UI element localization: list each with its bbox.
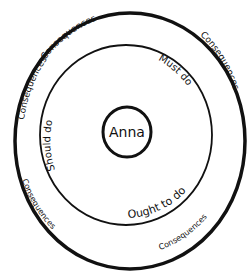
- svg-text:Ought to do: Ought to do: [127, 184, 189, 221]
- svg-text:Consequences: Consequences: [20, 178, 57, 231]
- svg-text:Consequences: Consequences: [199, 29, 242, 91]
- inner-label-ought-to-do: Ought to do: [127, 184, 189, 221]
- svg-text:Must do: Must do: [157, 52, 195, 87]
- outer-label-bottom-left: Consequences: [20, 178, 57, 231]
- inner-label-must-do: Must do: [157, 52, 195, 87]
- outer-label-right: Consequences: [199, 29, 242, 91]
- svg-text:Consequences: Consequences: [157, 212, 208, 252]
- inner-label-should-do: Should do: [41, 119, 57, 173]
- center-label: Anna: [109, 124, 145, 140]
- svg-text:Should do: Should do: [41, 119, 57, 173]
- outer-label-bottom-right: Consequences: [157, 212, 208, 252]
- concentric-circles-diagram: Anna Consequences Consequences Consequen…: [0, 0, 252, 276]
